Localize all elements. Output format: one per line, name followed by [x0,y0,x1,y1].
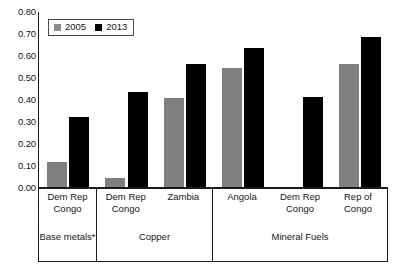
bar-2005-dem-rep-congo [47,162,67,188]
y-axis-tick-label: 0.50 [0,73,36,83]
group-label: Base metals* [39,226,96,261]
country-label-row: AngolaDem Rep CongoRep of Congo [213,188,387,226]
legend-swatch-2013-icon [95,24,102,31]
bar-2013-rep-of-congo [361,37,381,188]
bar-2013-angola [244,48,264,188]
legend-item-2005: 2005 [54,22,86,32]
y-axis-tick-label: 0.40 [0,95,36,105]
y-axis-tick-label: 0.60 [0,51,36,61]
bar-2013-zambia [186,64,206,188]
y-axis-tick-label: 0.30 [0,117,36,127]
country-label: Zambia [155,188,213,226]
bars-layer [39,12,388,188]
category-label-table: Dem Rep CongoBase metals*Dem Rep CongoZa… [38,188,388,262]
y-axis-tick-label: 0.20 [0,139,36,149]
country-label: Dem Rep Congo [97,188,155,226]
group-cell-base-metals: Dem Rep CongoBase metals* [39,188,97,261]
country-label: Angola [213,188,271,226]
group-cell-mineral-fuels: AngolaDem Rep CongoRep of CongoMineral F… [213,188,387,261]
group-label: Copper [97,226,212,261]
y-axis-tick-label: 0.00 [0,183,36,193]
y-axis-tick-label: 0.80 [0,7,36,17]
y-axis-tick-label: 0.70 [0,29,36,39]
country-label: Dem Rep Congo [271,188,329,226]
bar-chart: 0.000.100.200.300.400.500.600.700.80 200… [0,0,403,267]
bar-2005-angola [222,68,242,188]
country-label: Dem Rep Congo [39,188,96,226]
y-axis: 0.000.100.200.300.400.500.600.700.80 [0,12,36,188]
bar-2005-zambia [164,98,184,188]
group-cell-copper: Dem Rep CongoZambiaCopper [97,188,213,261]
chart-legend: 2005 2013 [48,19,134,36]
legend-label-2013: 2013 [106,22,127,32]
bar-2013-dem-rep-congo [303,97,323,188]
plot-area [38,12,388,188]
legend-swatch-2005-icon [54,24,61,31]
legend-item-2013: 2013 [95,22,127,32]
legend-label-2005: 2005 [65,22,86,32]
country-label-row: Dem Rep CongoZambia [97,188,212,226]
country-label-row: Dem Rep Congo [39,188,96,226]
bar-2013-dem-rep-congo [128,92,148,188]
y-axis-tick-label: 0.10 [0,161,36,171]
bar-2005-rep-of-congo [339,64,359,188]
group-label: Mineral Fuels [213,226,387,261]
bar-2013-dem-rep-congo [69,117,89,189]
country-label: Rep of Congo [329,188,387,226]
